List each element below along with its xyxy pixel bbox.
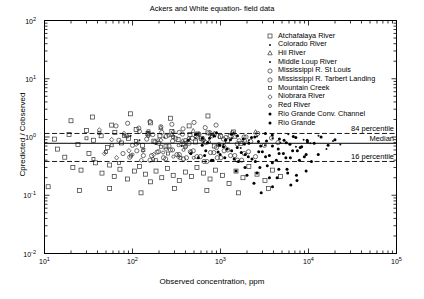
plot-canvas bbox=[0, 0, 424, 299]
reference-label: Median bbox=[0, 134, 394, 143]
legend-marker bbox=[266, 93, 274, 101]
legend-marker bbox=[266, 110, 274, 118]
legend-marker bbox=[266, 32, 274, 40]
chart-title: Ackers and White equation- field data bbox=[0, 4, 424, 13]
y-tick-label: 101 bbox=[12, 74, 36, 83]
y-tick-label: 10-1 bbox=[12, 190, 36, 199]
x-tick-label: 102 bbox=[118, 256, 148, 265]
legend-marker bbox=[266, 58, 274, 66]
x-tick-label: 105 bbox=[382, 256, 412, 265]
legend-marker bbox=[266, 41, 274, 49]
reference-label: 16 percentile bbox=[0, 152, 394, 161]
chart-figure: Ackers and White equation- field data Cp… bbox=[0, 0, 424, 299]
reference-label: 84 percentile bbox=[0, 124, 394, 133]
x-tick-label: 104 bbox=[294, 256, 324, 265]
y-tick-label: 102 bbox=[12, 16, 36, 25]
legend-marker bbox=[266, 102, 274, 110]
x-tick-label: 103 bbox=[206, 256, 236, 265]
legend-marker bbox=[266, 76, 274, 84]
x-tick-label: 101 bbox=[30, 256, 60, 265]
x-axis-label: Observed concentration, ppm bbox=[0, 277, 424, 286]
legend-marker bbox=[266, 84, 274, 92]
legend-marker bbox=[266, 49, 274, 57]
legend-marker bbox=[266, 67, 274, 75]
